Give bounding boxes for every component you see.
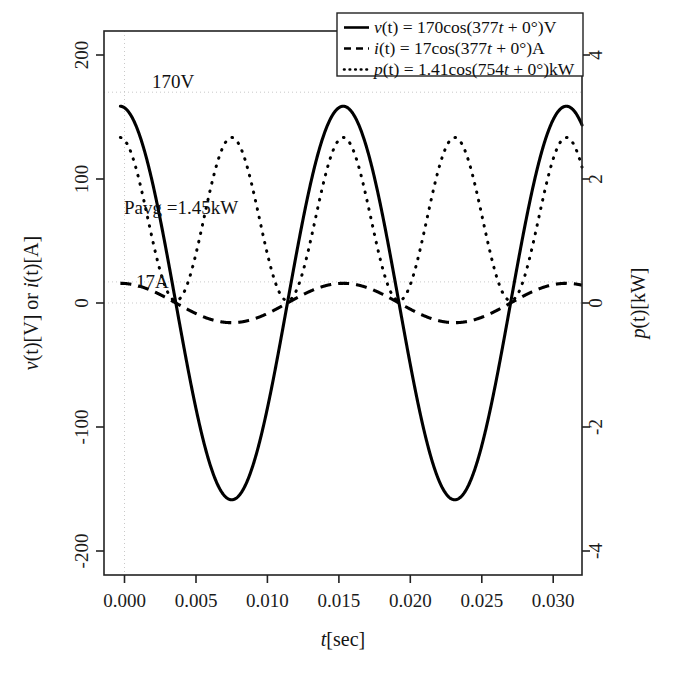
y-axis-title-v: v <box>20 361 42 370</box>
legend-entry-power: p(t) = 1.41cos(754t + 0°)kW <box>372 59 575 79</box>
left-axis-ticks <box>96 55 104 551</box>
ytick-label-4: -200 <box>71 534 92 569</box>
legend-post-v: + 0°)V <box>503 17 556 37</box>
y2-axis-title-unit: (t)[kW] <box>627 267 650 328</box>
y2tick-label-4: -4 <box>585 543 606 559</box>
ytick-label-2: 0 <box>71 298 92 308</box>
y-axis-title-i-unit: (t)[A] <box>20 236 43 283</box>
x-axis-title-unit: [sec] <box>326 628 365 650</box>
annotation-average-power: Pavg =1.45kW <box>124 197 238 218</box>
left-axis-tick-labels: 200 100 0 -100 -200 <box>71 41 92 569</box>
y2-axis-title-symbol: p <box>627 329 650 341</box>
legend-pre-v: (t) = 170cos(377 <box>382 17 499 37</box>
xtick-label-1: 0.005 <box>175 590 218 611</box>
ytick-label-0: 200 <box>71 41 92 70</box>
xtick-label-5: 0.025 <box>460 590 503 611</box>
legend-pre-p: (t) = 1.41cos(754 <box>383 59 504 79</box>
y2tick-label-1: 2 <box>585 174 606 184</box>
legend-entry-voltage: v(t) = 170cos(377t + 0°)V <box>374 17 557 37</box>
xtick-label-6: 0.030 <box>532 590 575 611</box>
legend-post-i: + 0°)A <box>492 38 545 58</box>
legend-post-p: + 0°)kW <box>509 59 575 79</box>
chart-figure: 200 100 0 -100 -200 v(t)[V] or i(t)[A] 4… <box>0 0 680 675</box>
ytick-label-1: 100 <box>71 165 92 194</box>
legend-pre-i: (t) = 17cos(377 <box>379 38 487 58</box>
annotation-peak-voltage: 170V <box>152 71 195 92</box>
xtick-label-4: 0.020 <box>389 590 432 611</box>
y2tick-label-3: -2 <box>585 419 606 435</box>
right-axis-tick-labels: 4 2 0 -2 -4 <box>585 50 606 559</box>
chart-legend: v(t) = 170cos(377t + 0°)V i(t) = 17cos(3… <box>337 13 583 79</box>
y2tick-label-2: 0 <box>585 298 606 308</box>
y-axis-title-v-unit: (t)[V] or <box>20 288 43 361</box>
xtick-label-2: 0.010 <box>246 590 289 611</box>
legend-entry-current: i(t) = 17cos(377t + 0°)A <box>374 38 545 58</box>
x-axis-ticks <box>125 575 554 583</box>
x-axis-title: t[sec] <box>321 628 365 650</box>
legend-symbol-p: p <box>372 59 383 79</box>
y2tick-label-0: 4 <box>585 50 606 60</box>
y2-axis-title: p(t)[kW] <box>627 267 650 340</box>
annotation-peak-current: 17A <box>136 271 169 292</box>
xtick-label-3: 0.015 <box>318 590 361 611</box>
waveform-chart-svg: 200 100 0 -100 -200 v(t)[V] or i(t)[A] 4… <box>0 0 680 675</box>
xtick-label-0: 0.000 <box>103 590 146 611</box>
ytick-label-3: -100 <box>71 410 92 445</box>
y-axis-title: v(t)[V] or i(t)[A] <box>20 236 43 370</box>
x-axis-tick-labels: 0.000 0.005 0.010 0.015 0.020 0.025 0.03… <box>103 590 574 611</box>
